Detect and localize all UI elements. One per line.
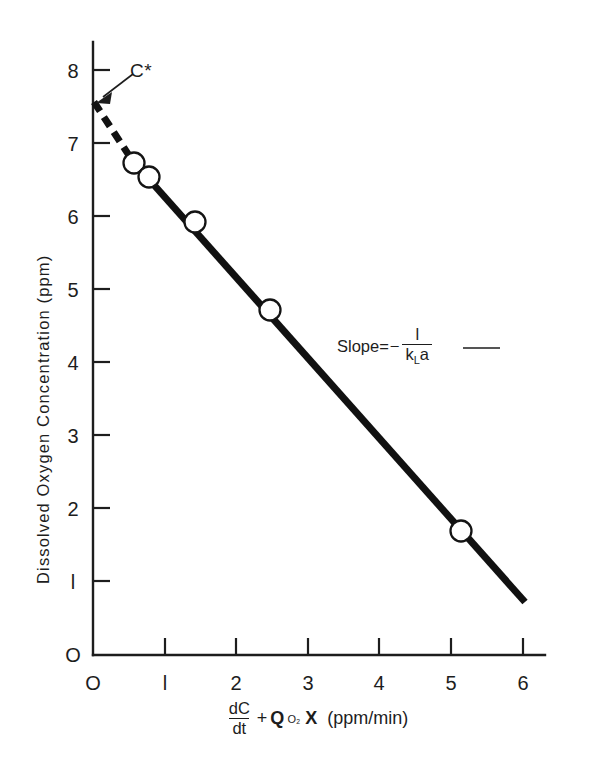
cstar-arrow-shaft: [103, 74, 133, 97]
x-tick-label-4: 4: [373, 672, 384, 694]
x-label-x-term: X: [305, 708, 317, 729]
slope-denominator-a: a: [420, 345, 429, 363]
data-point: [185, 212, 206, 233]
x-label-fraction-denominator: dt: [229, 718, 249, 737]
y-tick-label-7: 7: [67, 133, 78, 155]
y-tick-label-8: 8: [67, 60, 78, 82]
cstar-arrow-head: [96, 92, 112, 104]
x-tick-label-1: l: [163, 672, 167, 694]
x-label-q-subscript: O₂: [287, 713, 300, 725]
data-point: [139, 167, 160, 188]
x-label-q-term: Q: [270, 708, 284, 729]
slope-fraction-denominator: kLa: [402, 344, 432, 367]
extrapolation-line: [94, 102, 132, 160]
x-tick-label-3: 3: [302, 672, 313, 694]
y-tick-label-3: 3: [67, 425, 78, 447]
slope-minus-sign: −: [390, 337, 400, 356]
data-point: [451, 521, 472, 542]
slope-equals-sign: =: [379, 337, 389, 356]
x-tick-label-0: O: [85, 672, 101, 694]
y-tick-label-1: l: [71, 571, 75, 593]
figure-root: 8 7 6 5 4 3 2 l O O l 2 3 4 5 6: [0, 0, 589, 774]
y-axis-title: Dissolved Oxygen Concentration (ppm): [34, 255, 53, 584]
y-tick-label-5: 5: [67, 279, 78, 301]
chart-plot-area: 8 7 6 5 4 3 2 l O O l 2 3 4 5 6: [0, 0, 589, 774]
slope-fraction: l kLa: [402, 326, 432, 367]
y-tick-label-2: 2: [67, 498, 78, 520]
x-label-units: (ppm/min): [327, 708, 408, 729]
slope-annotation: Slope = − l kLa: [337, 326, 433, 367]
x-axis-ticks: [165, 638, 523, 655]
x-label-fraction-numerator: dC: [226, 700, 253, 718]
data-point: [260, 300, 281, 321]
slope-denominator-k: k: [405, 345, 413, 363]
x-label-fraction: dC dt: [226, 700, 253, 737]
y-axis-tick-labels: 8 7 6 5 4 3 2 l O: [65, 60, 81, 666]
x-tick-label-2: 2: [230, 672, 241, 694]
cstar-arrow: [96, 74, 133, 104]
x-tick-label-5: 5: [445, 672, 456, 694]
x-axis-title: dC dt + QO₂ X (ppm/min): [0, 700, 589, 737]
y-axis-ticks: [93, 70, 110, 581]
y-tick-label-4: 4: [67, 352, 78, 374]
slope-fraction-numerator: l: [412, 326, 422, 344]
x-tick-label-6: 6: [517, 672, 528, 694]
slope-prefix-label: Slope: [337, 337, 379, 356]
cstar-label: C*: [130, 60, 152, 82]
x-axis-tick-labels: O l 2 3 4 5 6: [85, 672, 528, 694]
y-tick-label-0: O: [65, 644, 81, 666]
x-label-plus-sign: +: [257, 708, 268, 729]
y-tick-label-6: 6: [67, 206, 78, 228]
